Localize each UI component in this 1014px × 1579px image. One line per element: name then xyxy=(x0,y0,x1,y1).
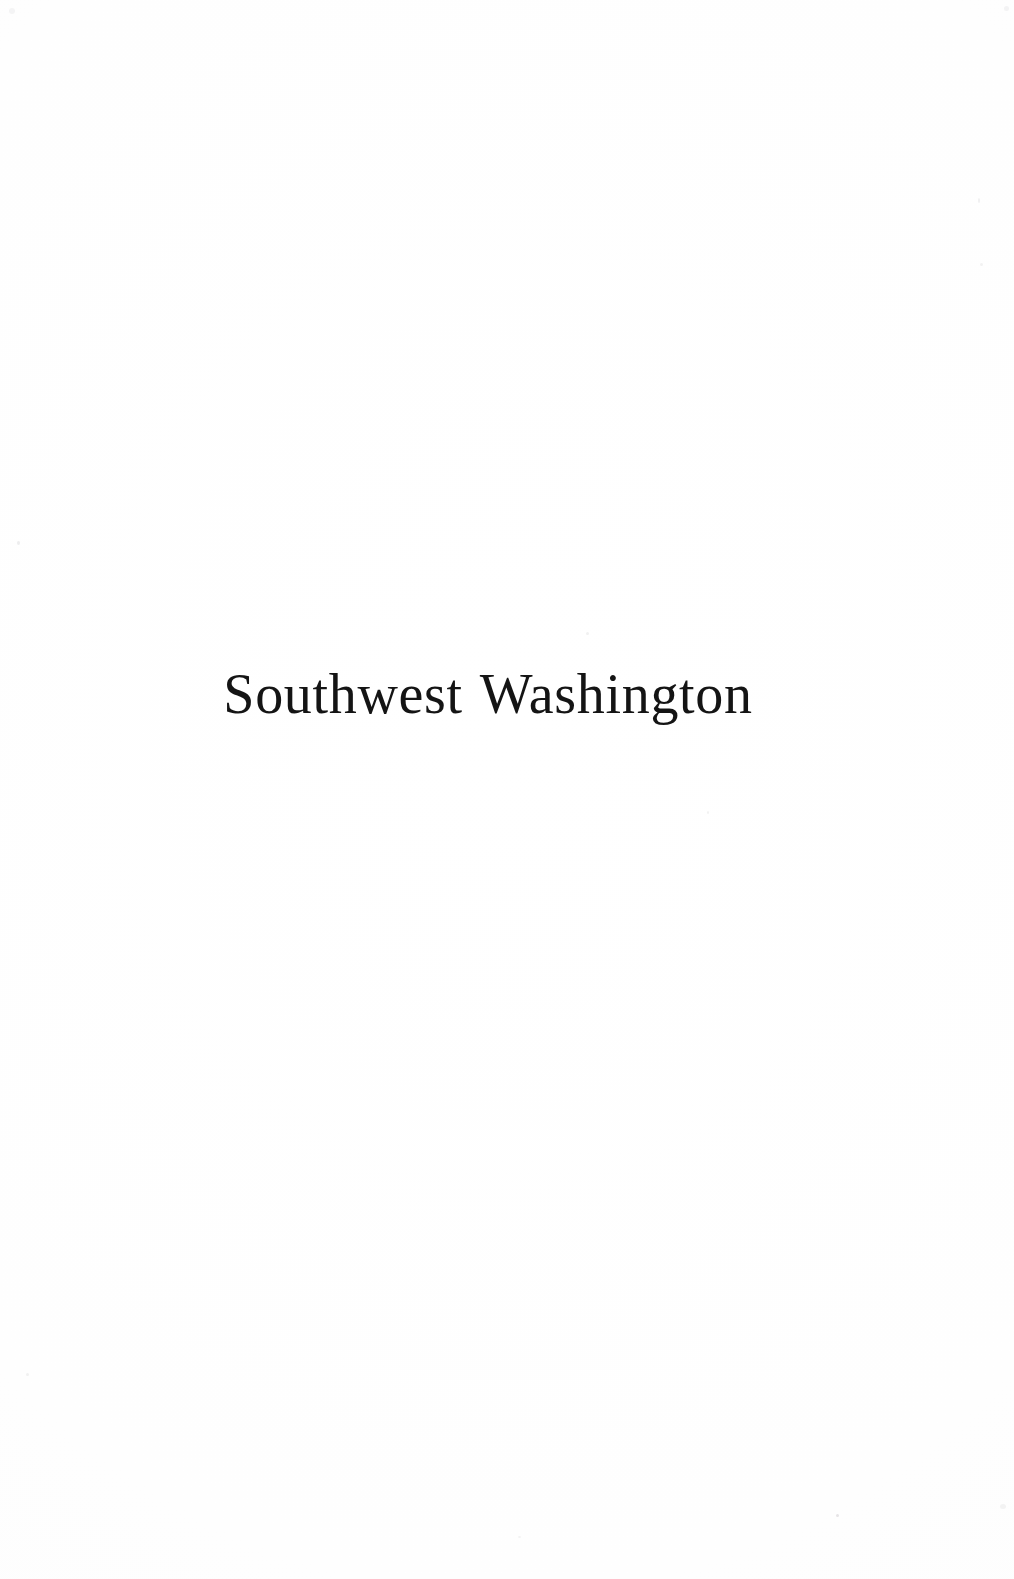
page-title: Southwest Washington xyxy=(0,664,976,724)
scan-speck xyxy=(1004,6,1009,11)
type-area: Southwest Washington xyxy=(0,0,976,1579)
scan-speck xyxy=(978,198,980,203)
scanned-page: Southwest Washington xyxy=(0,0,1014,1579)
scan-speck xyxy=(1000,1504,1006,1509)
scan-speck xyxy=(980,263,983,266)
